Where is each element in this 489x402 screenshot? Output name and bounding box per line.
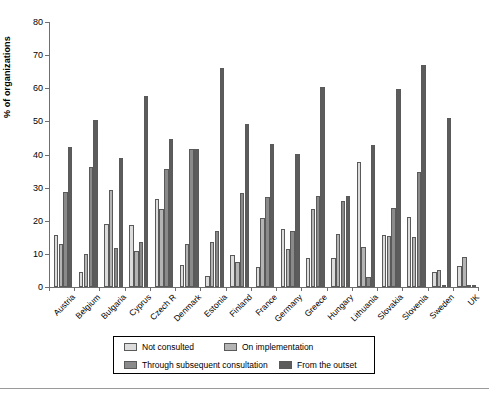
legend-label: On implementation xyxy=(242,342,313,352)
y-tick-label: 40 xyxy=(33,150,43,160)
bar-group xyxy=(382,22,401,287)
y-tick-label: 30 xyxy=(33,183,43,193)
bar xyxy=(290,231,294,287)
x-tick-mark xyxy=(150,287,151,291)
legend-item-on-implementation: On implementation xyxy=(224,342,313,352)
bar-group xyxy=(205,22,224,287)
bar-group xyxy=(180,22,199,287)
bar xyxy=(286,249,290,287)
x-axis-line xyxy=(49,287,478,288)
legend-swatch-icon-through-subsequent-consultation xyxy=(124,361,137,369)
y-tick-mark xyxy=(45,221,49,222)
x-tick-mark xyxy=(276,287,277,291)
bar xyxy=(467,285,471,287)
x-category-label: Sweden xyxy=(427,292,456,321)
legend-label: Not consulted xyxy=(142,342,194,352)
x-tick-mark xyxy=(200,287,201,291)
bar xyxy=(346,196,350,287)
bar xyxy=(79,272,83,287)
legend-swatch-icon-not-consulted xyxy=(124,343,137,351)
bar xyxy=(240,193,244,287)
x-tick-mark xyxy=(428,287,429,291)
bar xyxy=(442,285,446,287)
bar xyxy=(114,248,118,287)
bar xyxy=(63,192,67,287)
bar xyxy=(194,149,198,287)
y-tick-mark xyxy=(45,188,49,189)
x-tick-mark xyxy=(327,287,328,291)
bar-group xyxy=(306,22,325,287)
bar xyxy=(320,87,324,287)
bar xyxy=(93,120,97,287)
legend-swatch-icon-from-the-outset xyxy=(279,361,292,369)
bar xyxy=(366,277,370,287)
bar xyxy=(396,89,400,287)
legend-label: Through subsequent consultation xyxy=(142,360,268,370)
x-category-label: Bulgaria xyxy=(99,292,128,321)
y-tick-mark xyxy=(45,254,49,255)
bar xyxy=(235,262,239,287)
bar xyxy=(265,197,269,287)
x-tick-mark xyxy=(99,287,100,291)
y-tick-mark xyxy=(45,55,49,56)
bar xyxy=(134,251,138,287)
bar xyxy=(281,229,285,287)
x-tick-mark xyxy=(453,287,454,291)
bar xyxy=(382,235,386,287)
bar xyxy=(472,285,476,287)
bar xyxy=(341,201,345,287)
bar-group xyxy=(357,22,376,287)
bar xyxy=(331,258,335,287)
x-category-label: Estonia xyxy=(201,292,228,319)
x-tick-mark xyxy=(377,287,378,291)
bar xyxy=(316,196,320,287)
bar xyxy=(371,145,375,287)
bar xyxy=(230,255,234,287)
bar xyxy=(412,237,416,287)
bar-group xyxy=(230,22,249,287)
bar-group xyxy=(432,22,451,287)
y-tick-label: 50 xyxy=(33,116,43,126)
legend-label: From the outset xyxy=(297,360,357,370)
y-tick-mark xyxy=(45,88,49,89)
bar xyxy=(205,276,209,287)
legend-item-through-subsequent-consultation: Through subsequent consultation xyxy=(124,360,268,370)
x-tick-mark xyxy=(352,287,353,291)
bar xyxy=(245,124,249,287)
x-category-label: Slovenia xyxy=(400,292,430,322)
bar xyxy=(357,162,361,287)
bar xyxy=(407,217,411,287)
bar xyxy=(84,254,88,287)
bar xyxy=(421,65,425,287)
bar-group xyxy=(54,22,73,287)
bar xyxy=(220,68,224,287)
bar xyxy=(270,144,274,287)
x-category-label: Slovakia xyxy=(375,292,405,322)
bar xyxy=(306,258,310,287)
bar xyxy=(129,225,133,287)
bar-group xyxy=(79,22,98,287)
x-tick-mark xyxy=(251,287,252,291)
bar-group xyxy=(129,22,148,287)
y-tick-label: 60 xyxy=(33,83,43,93)
y-tick-label: 80 xyxy=(33,17,43,27)
bar xyxy=(295,154,299,287)
y-tick-label: 20 xyxy=(33,216,43,226)
bar xyxy=(260,218,264,287)
bar xyxy=(391,208,395,287)
bar xyxy=(169,139,173,287)
y-tick-label: 10 xyxy=(33,249,43,259)
y-tick-label: 0 xyxy=(38,282,43,292)
bar xyxy=(59,244,63,287)
bar-group xyxy=(407,22,426,287)
bar xyxy=(139,242,143,287)
bar-chart: % of organizations 01020304050607080 Aus… xyxy=(0,0,489,402)
x-category-label: Finland xyxy=(227,292,254,319)
x-tick-mark xyxy=(49,287,50,291)
bar xyxy=(336,234,340,287)
legend-swatch-icon-on-implementation xyxy=(224,343,237,351)
x-tick-mark xyxy=(125,287,126,291)
bar xyxy=(215,231,219,287)
legend-item-from-the-outset: From the outset xyxy=(279,360,357,370)
x-tick-mark xyxy=(301,287,302,291)
